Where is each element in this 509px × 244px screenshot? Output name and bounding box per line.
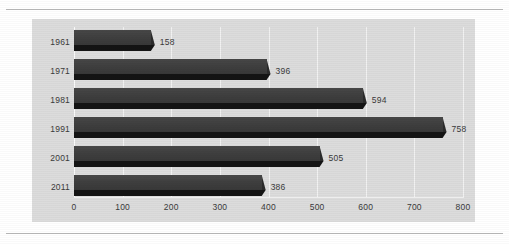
x-tick-label-400: 400 (261, 202, 276, 212)
bar-1971[interactable] (74, 59, 267, 80)
bar-bottom-bevel (74, 132, 447, 138)
bar-face (74, 117, 443, 132)
category-label-2001: 2001 (32, 153, 70, 163)
bar-face (74, 59, 267, 74)
bar-bottom-bevel (74, 103, 367, 109)
bar-value-label-1971: 396 (276, 66, 291, 76)
bar-end-bevel (262, 175, 266, 190)
x-tick-label-700: 700 (407, 202, 422, 212)
bar-face (74, 30, 151, 45)
bar-value-label-2001: 505 (329, 153, 344, 163)
x-tick-label-600: 600 (358, 202, 373, 212)
bar-face (74, 146, 320, 161)
bar-chart-figure: 1961158197139619815941991758200150520113… (0, 0, 509, 244)
bar-face (74, 88, 363, 103)
bar-bottom-bevel (74, 161, 324, 167)
bar-bottom-bevel (74, 74, 271, 80)
x-tick-label-300: 300 (212, 202, 227, 212)
bar-value-label-1991: 758 (452, 124, 467, 134)
bar-row: 1961158 (32, 27, 475, 56)
x-tick-label-200: 200 (164, 202, 179, 212)
bar-value-label-1981: 594 (372, 95, 387, 105)
bar-2011[interactable] (74, 175, 262, 196)
bottom-divider-rule (6, 233, 503, 234)
bars-layer: 1961158197139619815941991758200150520113… (32, 19, 475, 222)
bar-1961[interactable] (74, 30, 151, 51)
x-tick-label-0: 0 (72, 202, 77, 212)
x-axis-tick-labels: 0100200300400500600700800 (32, 202, 475, 218)
bar-end-bevel (320, 146, 324, 161)
bar-bottom-bevel (74, 45, 155, 51)
bar-1981[interactable] (74, 88, 363, 109)
bar-bottom-bevel (74, 190, 266, 196)
category-label-1981: 1981 (32, 95, 70, 105)
category-label-1961: 1961 (32, 37, 70, 47)
bar-end-bevel (363, 88, 367, 103)
bar-end-bevel (443, 117, 447, 132)
bar-face (74, 175, 262, 190)
chart-plot-panel: 1961158197139619815941991758200150520113… (32, 19, 475, 222)
x-tick-label-500: 500 (310, 202, 325, 212)
bar-value-label-2011: 386 (271, 182, 286, 192)
category-label-1971: 1971 (32, 66, 70, 76)
category-label-1991: 1991 (32, 124, 70, 134)
category-label-2011: 2011 (32, 182, 70, 192)
bar-2001[interactable] (74, 146, 320, 167)
bar-row: 1991758 (32, 114, 475, 143)
bar-end-bevel (267, 59, 271, 74)
bar-row: 2001505 (32, 143, 475, 172)
bar-1991[interactable] (74, 117, 443, 138)
top-divider-rule (6, 9, 503, 10)
x-tick-label-800: 800 (456, 202, 471, 212)
bar-row: 1981594 (32, 85, 475, 114)
bar-row: 2011386 (32, 172, 475, 201)
x-tick-label-100: 100 (115, 202, 130, 212)
bar-row: 1971396 (32, 56, 475, 85)
bar-end-bevel (151, 30, 155, 45)
bar-value-label-1961: 158 (160, 37, 175, 47)
